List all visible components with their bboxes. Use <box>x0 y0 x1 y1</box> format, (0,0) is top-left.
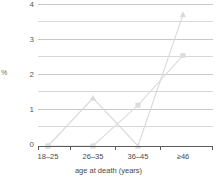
x-tick-label-36-45: 36–45 <box>115 152 161 161</box>
series-2-point-3 <box>181 53 185 57</box>
x-tick-end <box>212 146 213 150</box>
series-1-point-3 <box>180 12 185 17</box>
series-1-group <box>45 12 185 148</box>
x-axis-title: age at death (years) <box>0 166 217 175</box>
x-tick-1 <box>70 146 71 150</box>
x-tick-start <box>38 146 39 150</box>
x-tick-2 <box>115 146 116 150</box>
series-2-point-2 <box>136 103 140 107</box>
x-axis-line <box>38 146 213 147</box>
series-2-line <box>48 55 183 146</box>
chart-container: % 4 3 2 1 0 18–25 26–35 36–45 ≥46 age at… <box>0 0 217 181</box>
x-tick-label-46plus: ≥46 <box>160 152 206 161</box>
x-tick-label-26-35: 26–35 <box>70 152 116 161</box>
x-tick-3 <box>160 146 161 150</box>
series-1-point-1 <box>90 95 95 100</box>
x-tick-label-18-25: 18–25 <box>25 152 71 161</box>
series-2-group <box>46 53 185 148</box>
